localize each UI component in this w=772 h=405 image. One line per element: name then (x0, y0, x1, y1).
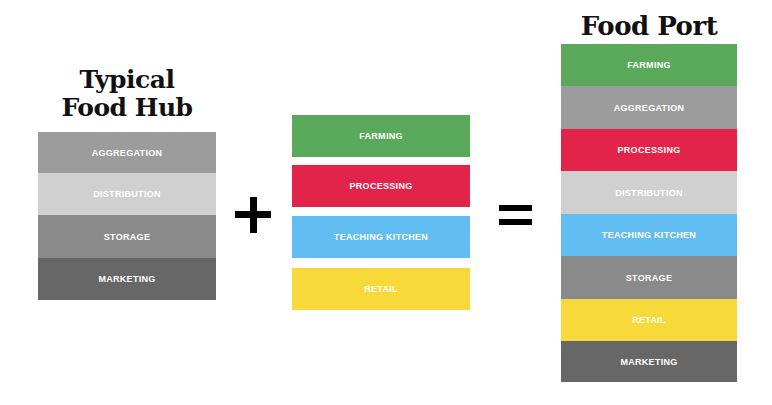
band-distribution: DISTRIBUTION (38, 173, 216, 215)
title-line-2: Food Hub (38, 95, 216, 120)
band-label: STORAGE (104, 232, 150, 242)
band-processing: PROCESSING (292, 165, 470, 207)
band-label: STORAGE (626, 273, 672, 283)
band-marketing: MARKETING (38, 258, 216, 300)
band-label: TEACHING KITCHEN (602, 230, 696, 240)
band-marketing: MARKETING (561, 341, 737, 382)
food-port-stack: FARMING AGGREGATION PROCESSING DISTRIBUT… (561, 44, 737, 382)
band-label: AGGREGATION (92, 148, 163, 158)
food-port-title: Food Port (561, 13, 737, 39)
band-distribution: DISTRIBUTION (561, 171, 737, 214)
band-farming: FARMING (292, 115, 470, 157)
band-label: DISTRIBUTION (93, 189, 161, 199)
band-storage: STORAGE (38, 215, 216, 258)
band-label: RETAIL (632, 315, 666, 325)
band-aggregation: AGGREGATION (38, 132, 216, 173)
typical-food-hub-stack: AGGREGATION DISTRIBUTION STORAGE MARKETI… (38, 132, 216, 300)
band-aggregation: AGGREGATION (561, 86, 737, 129)
band-label: AGGREGATION (614, 103, 685, 113)
band-label: FARMING (359, 131, 403, 141)
band-label: TEACHING KITCHEN (334, 232, 428, 242)
band-processing: PROCESSING (561, 129, 737, 171)
band-teaching-kitchen: TEACHING KITCHEN (292, 216, 470, 258)
band-label: PROCESSING (349, 181, 412, 191)
band-label: RETAIL (364, 284, 398, 294)
band-label: DISTRIBUTION (615, 188, 683, 198)
band-label: MARKETING (98, 274, 155, 284)
band-storage: STORAGE (561, 256, 737, 299)
band-label: PROCESSING (617, 145, 680, 155)
band-retail: RETAIL (561, 299, 737, 341)
band-label: MARKETING (620, 357, 677, 367)
band-retail: RETAIL (292, 268, 470, 310)
band-label: FARMING (627, 60, 671, 70)
band-teaching-kitchen: TEACHING KITCHEN (561, 214, 737, 256)
band-farming: FARMING (561, 44, 737, 86)
typical-food-hub-title: Typical Food Hub (38, 67, 216, 120)
title-line-1: Typical (38, 67, 216, 92)
